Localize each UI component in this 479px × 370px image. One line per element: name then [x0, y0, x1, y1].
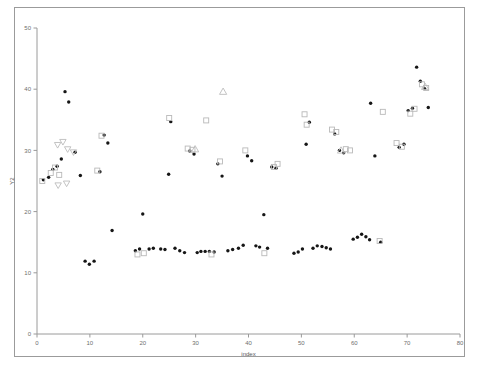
- data-point-circle: [292, 252, 295, 255]
- scatter-plot-screenshot: 0102030405060708001020304050indexY2: [0, 0, 479, 370]
- data-point-circle: [138, 247, 141, 250]
- data-point-circle: [262, 213, 265, 216]
- data-point-circle: [152, 247, 155, 250]
- data-point-square: [57, 172, 62, 177]
- data-point-circle: [304, 143, 307, 146]
- data-point-circle: [369, 102, 372, 105]
- data-point-circle: [242, 244, 245, 247]
- series-open-square: [40, 82, 429, 257]
- data-point-triangle-down: [63, 181, 69, 187]
- data-point-circle: [316, 244, 319, 247]
- data-point-triangle-down: [54, 142, 60, 148]
- data-point-circle: [167, 173, 170, 176]
- data-point-circle: [178, 249, 181, 252]
- y-tick-label: 30: [24, 148, 31, 154]
- x-tick-label: 30: [192, 340, 199, 346]
- data-point-circle: [320, 245, 323, 248]
- series-open-triangle-up: [191, 83, 428, 153]
- data-point-square: [380, 109, 385, 114]
- data-point-square: [135, 252, 140, 257]
- data-point-circle: [159, 247, 162, 250]
- y-tick-label: 20: [24, 209, 31, 215]
- data-point-circle: [360, 233, 363, 236]
- data-point-square: [167, 115, 172, 120]
- data-point-circle: [373, 154, 376, 157]
- y-tick-label: 0: [28, 331, 32, 337]
- data-point-circle: [67, 100, 70, 103]
- data-point-square: [302, 112, 307, 117]
- data-point-circle: [297, 250, 300, 253]
- data-point-circle: [246, 154, 249, 157]
- data-point-circle: [427, 106, 430, 109]
- data-point-circle: [47, 176, 50, 179]
- data-point-circle: [258, 245, 261, 248]
- axis-labels-group: 0102030405060708001020304050indexY2: [9, 25, 464, 357]
- y-tick-label: 40: [24, 86, 31, 92]
- data-point-circle: [163, 248, 166, 251]
- data-point-circle: [250, 159, 253, 162]
- scatter-plot-canvas: 0102030405060708001020304050indexY2: [0, 0, 479, 370]
- data-point-square: [262, 251, 267, 256]
- x-tick-label: 20: [139, 340, 146, 346]
- y-axis-title: Y2: [9, 177, 15, 185]
- data-point-circle: [254, 244, 257, 247]
- data-point-circle: [173, 247, 176, 250]
- axes-group: [34, 28, 461, 338]
- data-point-circle: [266, 247, 269, 250]
- data-point-circle: [329, 247, 332, 250]
- y-tick-label: 50: [24, 25, 31, 31]
- data-point-square: [204, 118, 209, 123]
- data-point-circle: [63, 90, 66, 93]
- data-point-circle: [183, 251, 186, 254]
- x-tick-label: 80: [457, 340, 464, 346]
- data-point-square: [141, 251, 146, 256]
- data-point-circle: [351, 237, 354, 240]
- data-point-circle: [141, 212, 144, 215]
- data-point-circle: [415, 65, 418, 68]
- x-tick-label: 0: [35, 340, 39, 346]
- data-point-circle: [364, 235, 367, 238]
- data-point-circle: [220, 174, 223, 177]
- data-point-circle: [203, 250, 206, 253]
- data-point-circle: [368, 238, 371, 241]
- data-point-circle: [106, 141, 109, 144]
- data-point-circle: [311, 247, 314, 250]
- data-point-circle: [192, 152, 195, 155]
- x-tick-label: 70: [404, 340, 411, 346]
- data-point-circle: [196, 251, 199, 254]
- data-point-circle: [325, 246, 328, 249]
- x-tick-label: 10: [87, 340, 94, 346]
- data-point-circle: [79, 174, 82, 177]
- data-point-circle: [301, 247, 304, 250]
- data-point-circle: [237, 247, 240, 250]
- y-tick-label: 10: [24, 270, 31, 276]
- data-point-circle: [83, 259, 86, 262]
- data-point-circle: [88, 263, 91, 266]
- x-tick-label: 60: [351, 340, 358, 346]
- data-point-circle: [199, 250, 202, 253]
- series-filled-circle: [42, 65, 430, 265]
- series-open-triangle-down: [54, 139, 76, 188]
- data-point-triangle-up: [220, 88, 227, 94]
- data-point-square: [275, 161, 280, 166]
- markers-group: [40, 65, 430, 265]
- data-point-circle: [110, 229, 113, 232]
- data-point-square: [243, 148, 248, 153]
- data-point-square: [48, 171, 53, 176]
- data-point-circle: [231, 248, 234, 251]
- data-point-circle: [226, 249, 229, 252]
- data-point-triangle-down: [55, 183, 61, 189]
- data-point-circle: [356, 236, 359, 239]
- data-point-square: [394, 141, 399, 146]
- x-axis-title: index: [241, 351, 255, 357]
- data-point-circle: [92, 259, 95, 262]
- x-tick-label: 40: [245, 340, 252, 346]
- x-tick-label: 50: [298, 340, 305, 346]
- data-point-circle: [147, 247, 150, 250]
- data-point-circle: [60, 157, 63, 160]
